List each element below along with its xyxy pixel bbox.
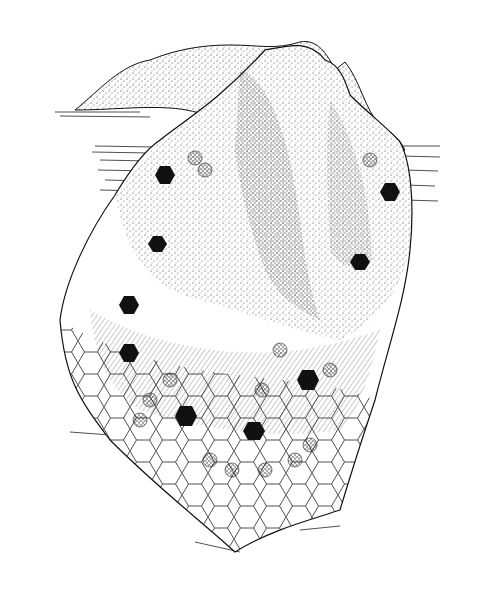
quilt-drawing	[0, 0, 482, 591]
illustration	[0, 0, 482, 591]
